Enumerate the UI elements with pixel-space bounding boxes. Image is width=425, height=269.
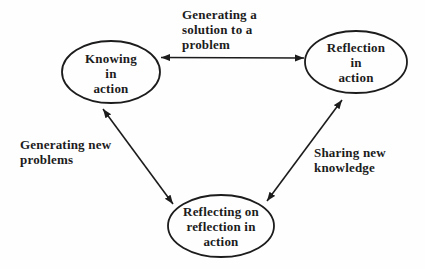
edge-label-sharing-new-knowledge: Sharing new knowledge	[314, 145, 386, 175]
edge-label-generating-new-problems: Generating new problems	[20, 137, 111, 167]
edge-label-generating-solution: Generating a solution to a problem	[182, 7, 257, 52]
diagram-canvas: Knowing in action Reflection in action R…	[0, 0, 425, 269]
node-label-reflection-in-action: Reflection in action	[327, 40, 385, 85]
node-label-reflecting-on-reflection: Reflecting on reflection in action	[183, 204, 259, 249]
edge-knowing-reflecting-arrow	[103, 109, 173, 204]
node-label-knowing-in-action: Knowing in action	[85, 51, 137, 96]
edge-knowing-reflection-arrow	[161, 58, 304, 59]
